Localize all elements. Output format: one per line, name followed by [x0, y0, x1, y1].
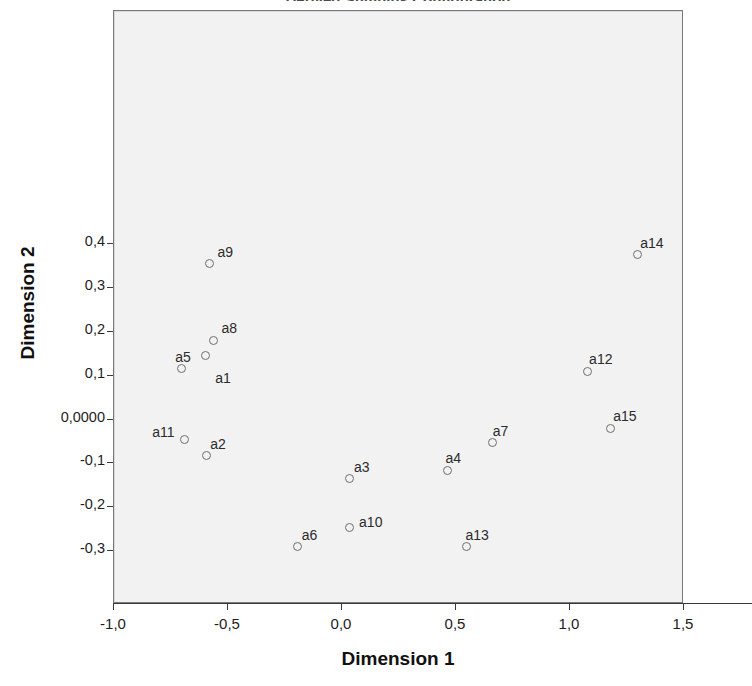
plot-canvas: a1a2a3a4a5a6a7a8a9a10a11a12a13a14a15: [114, 11, 682, 602]
data-point-a5: [177, 364, 186, 373]
data-point-a6: [293, 542, 302, 551]
y-tick-label: 0,2: [0, 321, 105, 337]
data-point-label-a6: a6: [302, 527, 318, 543]
data-point-label-a11: a11: [152, 424, 174, 440]
y-tick-label: -0,1: [0, 452, 105, 468]
data-point-a11: [180, 435, 189, 444]
data-point-label-a1: a1: [215, 370, 231, 386]
data-point-label-a5: a5: [175, 349, 191, 365]
y-tick-mark: [107, 331, 113, 332]
data-point-a14: [633, 250, 642, 259]
data-point-a8: [209, 336, 218, 345]
x-axis-line: [113, 603, 752, 604]
x-tick-mark: [455, 603, 456, 610]
data-point-label-a12: a12: [589, 351, 612, 367]
data-point-label-a15: a15: [613, 408, 636, 424]
data-point-a10: [345, 523, 354, 532]
data-point-label-a4: a4: [446, 450, 462, 466]
data-point-label-a7: a7: [493, 423, 509, 439]
y-tick-label: 0,1: [0, 365, 105, 381]
x-axis-title: Dimension 1: [113, 648, 683, 670]
data-point-label-a14: a14: [640, 235, 663, 251]
x-tick-mark: [569, 603, 570, 610]
x-tick-mark: [341, 603, 342, 610]
y-tick-label: 0,0000: [0, 409, 105, 425]
y-tick-mark: [107, 419, 113, 420]
y-tick-mark: [107, 550, 113, 551]
y-tick-label: 0,3: [0, 277, 105, 293]
y-tick-mark: [107, 375, 113, 376]
y-tick-mark: [107, 462, 113, 463]
data-point-a2: [202, 451, 211, 460]
plot-area: a1a2a3a4a5a6a7a8a9a10a11a12a13a14a15: [113, 10, 683, 603]
x-tick-label: 0,5: [415, 615, 495, 632]
data-point-label-a3: a3: [354, 459, 370, 475]
data-point-a1: [201, 351, 210, 360]
x-axis-origin-stub: [113, 603, 114, 610]
y-tick-mark: [107, 287, 113, 288]
data-point-a9: [205, 259, 214, 268]
x-tick-mark: [683, 603, 684, 610]
y-tick-label: -0,2: [0, 496, 105, 512]
x-tick-label: -1,0: [73, 615, 153, 632]
y-tick-label: -0,3: [0, 540, 105, 556]
mds-scatter-plot: Derived Stimulus Configuration a1a2a3a4a…: [0, 0, 752, 686]
data-point-label-a10: a10: [359, 514, 382, 530]
x-tick-label: 1,0: [529, 615, 609, 632]
data-point-label-a2: a2: [210, 436, 226, 452]
data-point-a13: [462, 542, 471, 551]
y-tick-mark: [107, 506, 113, 507]
data-point-label-a13: a13: [465, 527, 488, 543]
x-tick-label: -0,5: [187, 615, 267, 632]
data-point-a3: [345, 474, 354, 483]
x-tick-label: 1,5: [643, 615, 723, 632]
data-point-a15: [606, 424, 615, 433]
x-tick-label: 0,0: [301, 615, 381, 632]
chart-title: Derived Stimulus Configuration: [113, 0, 683, 1]
x-tick-mark: [227, 603, 228, 610]
y-tick-label: 0,4: [0, 233, 105, 249]
data-point-a7: [488, 438, 497, 447]
y-axis-title: Dimension 2: [17, 193, 39, 413]
data-point-label-a9: a9: [218, 244, 234, 260]
data-point-label-a8: a8: [221, 320, 237, 336]
data-point-a4: [443, 466, 452, 475]
data-point-a12: [583, 367, 592, 376]
y-tick-mark: [107, 243, 113, 244]
